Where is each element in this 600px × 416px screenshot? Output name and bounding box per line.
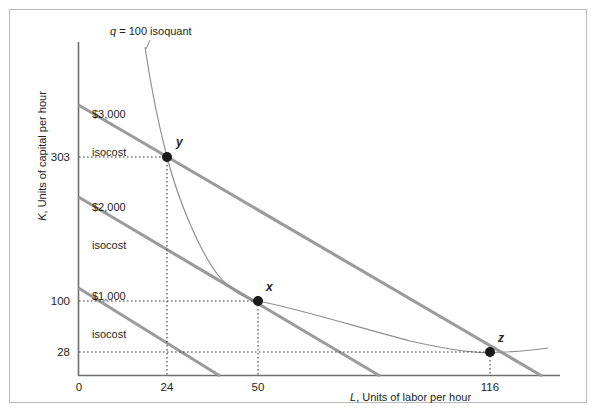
x-axis-title-text: , Units of labor per hour <box>356 391 471 403</box>
isoquant-curve <box>145 47 548 353</box>
isocost-2000-label-line1: $2,000 <box>92 201 126 214</box>
isocost-2000-label-line2: isocost <box>92 239 126 252</box>
data-point-x[interactable] <box>253 296 263 306</box>
isocost-1000-label-line2: isocost <box>92 328 126 341</box>
isocost-1000-label-line1: $1,000 <box>92 290 126 303</box>
x-tick-label-0: 0 <box>59 381 99 394</box>
data-point-label-z: z <box>498 332 504 345</box>
figure-container: K, Units of capital per hour L, Units of… <box>0 0 600 416</box>
x-axis-title: L, Units of labor per hour <box>350 391 471 403</box>
data-point-y[interactable] <box>162 152 172 162</box>
x-tick-label-24: 24 <box>147 381 187 394</box>
y-tick-label-28: 28 <box>30 346 70 359</box>
y-axis-symbol: K <box>36 213 48 220</box>
chart-plot-area <box>0 0 600 416</box>
data-point-label-x: x <box>266 281 273 294</box>
isocost-3000-label-line2: isocost <box>92 146 126 159</box>
y-tick-label-303: 303 <box>30 151 70 164</box>
isocost-1000-label: $1,000 isocost <box>92 265 126 365</box>
isocost-2000-label: $2,000 isocost <box>92 176 126 276</box>
data-point-z[interactable] <box>485 347 495 357</box>
x-tick-label-50: 50 <box>238 381 278 394</box>
isoquant-label: q = 100 isoquant <box>110 25 192 38</box>
isoquant-label-text: = 100 isoquant <box>116 25 192 37</box>
isocost-3000-label-line1: $3,000 <box>92 108 126 121</box>
isocost-3000-label: $3,000 isocost <box>92 83 126 183</box>
data-point-label-y: y <box>176 136 183 149</box>
x-tick-label-116: 116 <box>470 381 510 394</box>
isoquant-label-leader <box>146 40 150 49</box>
y-tick-label-100: 100 <box>30 295 70 308</box>
